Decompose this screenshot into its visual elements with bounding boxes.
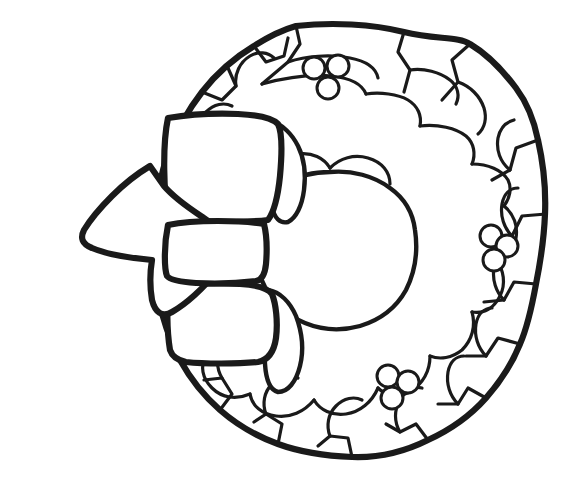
holly-berry xyxy=(303,57,325,79)
coloring-page-canvas xyxy=(0,0,582,490)
holly-berry xyxy=(381,387,403,409)
bow-center-knot xyxy=(165,221,267,283)
wreath-lineart-illustration xyxy=(0,0,582,490)
holly-berry xyxy=(327,55,349,77)
holly-berry xyxy=(483,249,505,271)
holly-berry xyxy=(317,77,339,99)
